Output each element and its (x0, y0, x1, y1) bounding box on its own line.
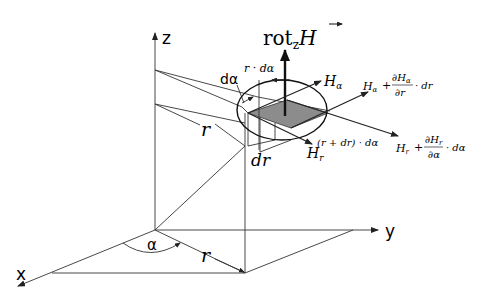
svg-text:Hr: Hr (395, 142, 410, 156)
d-alpha-label: dα (220, 71, 238, 87)
svg-text:+: + (414, 141, 423, 154)
svg-text:· dα: · dα (446, 142, 466, 153)
svg-text:∂Hr: ∂Hr (425, 134, 443, 147)
h-alpha-label: Hα (323, 73, 342, 91)
alpha-label: α (147, 236, 157, 254)
rot-z-h-label: rotzH (263, 26, 317, 52)
curl-cylindrical-diagram: z x y α r r dα (0, 0, 489, 300)
x-axis-label: x (16, 264, 26, 284)
r-upper-label: r (201, 118, 212, 140)
h-alpha-plus-label: Hα + ∂Hα ∂r · dr (362, 72, 434, 98)
svg-text:∂r: ∂r (395, 87, 406, 98)
svg-text:+: + (382, 79, 391, 92)
z-axis-label: z (162, 28, 171, 48)
r-ground-label: r (201, 244, 212, 266)
r-plus-dr-d-alpha-label: (r + dr) · dα (317, 137, 378, 148)
x-axis (18, 230, 155, 286)
svg-text:∂α: ∂α (428, 149, 440, 160)
svg-text:· dr: · dr (415, 80, 434, 91)
r-d-alpha-label: r · dα (244, 62, 275, 75)
y-axis-label: y (385, 221, 395, 241)
svg-text:Hα: Hα (362, 80, 378, 94)
r-ground-arrow (215, 259, 244, 272)
h-r-plus-label: Hr + ∂Hr ∂α · dα (395, 134, 466, 160)
svg-text:∂Hα: ∂Hα (392, 72, 411, 85)
dr-label: dr (251, 150, 271, 170)
